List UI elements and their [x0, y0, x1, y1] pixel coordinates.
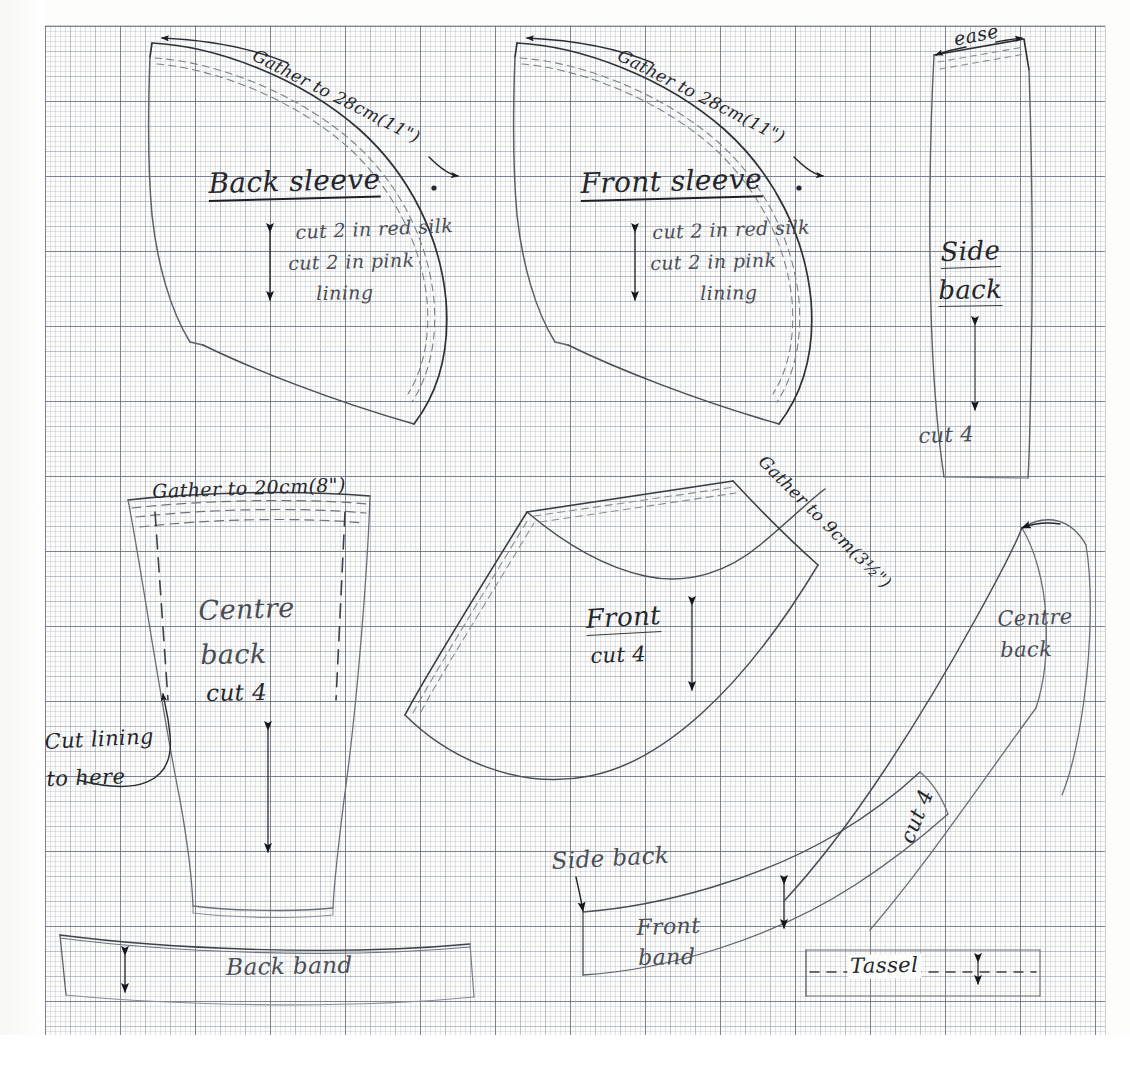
piece-centre-back-right-outline: [785, 520, 1090, 930]
front-band-label-line2: band: [638, 945, 695, 971]
side-back-title-line1: Side: [940, 236, 1001, 269]
pattern-drawing-layer: [0, 0, 1130, 1081]
cut-lining-note-line2: to here: [46, 765, 126, 791]
back-sleeve-gather-pointer: [429, 157, 458, 176]
side-back-cut-note: cut 4: [918, 423, 975, 448]
centre-back-title-line2: back: [200, 639, 267, 670]
centre-back-gather-dashes: [132, 501, 368, 527]
front-cut-note: cut 4: [590, 643, 647, 668]
back-sleeve-cut-note-3: lining: [316, 282, 374, 304]
centre-back-right-title-line2: back: [1000, 638, 1052, 662]
piece-tassel-outline: [806, 950, 1040, 996]
tassel-label: Tassel: [847, 954, 921, 979]
front-sleeve-cut-note-2: cut 2 in pink: [650, 250, 777, 275]
front-left-dashes: [413, 518, 534, 713]
centre-back-right-pointer: [1022, 523, 1060, 528]
back-sleeve-notch-dot: [431, 185, 436, 190]
pattern-sheet: Gather to 28cm(11") Back sleeve cut 2 in…: [0, 0, 1130, 1081]
front-sleeve-cut-note-3: lining: [700, 282, 758, 304]
front-sleeve-notch-dot: [796, 185, 801, 190]
front-title: Front: [585, 601, 662, 636]
front-sleeve-title: Front sleeve: [580, 163, 762, 202]
centre-back-title-line1: Centre: [198, 593, 295, 627]
front-gather-dashes: [534, 487, 736, 522]
centre-back-cut-note: cut 4: [206, 680, 267, 707]
front-band-side-back-pointer: [576, 877, 583, 911]
side-back-title-line2: back: [938, 275, 1003, 307]
front-sleeve-gather-pointer: [794, 157, 823, 176]
back-sleeve-title: Back sleeve: [208, 163, 381, 202]
back-sleeve-cut-note-2: cut 2 in pink: [288, 250, 415, 275]
front-band-label-line1: Front: [636, 914, 701, 941]
back-band-title: Back band: [226, 953, 353, 981]
centre-back-right-title-line1: Centre: [997, 605, 1073, 631]
